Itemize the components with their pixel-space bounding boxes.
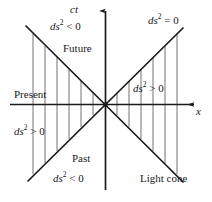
ds-squared-present-right-label: ds2 > 0 — [133, 83, 164, 94]
ds-operator: > — [149, 82, 155, 94]
ds-exponent: 2 — [60, 18, 64, 27]
ds-symbol: ds — [148, 14, 158, 26]
ds-operator: > — [30, 125, 36, 137]
ds-value: 0 — [173, 14, 179, 26]
ds-operator: = — [164, 14, 170, 26]
ds-operator: < — [69, 172, 75, 184]
ds-exponent: 2 — [143, 80, 147, 89]
ds-value: 0 — [39, 125, 45, 137]
ds-squared-past-label: ds2 < 0 — [53, 173, 84, 184]
ds-symbol: ds — [133, 82, 143, 94]
future-region-label: Future — [63, 43, 92, 54]
ds-squared-cone-label: ds2 = 0 — [148, 15, 179, 26]
ds-exponent: 2 — [24, 123, 28, 132]
ct-axis-label: ct — [70, 4, 78, 15]
x-axis-label: x — [196, 106, 201, 117]
ds-squared-future-label: ds2 < 0 — [50, 21, 81, 32]
ds-exponent: 2 — [158, 12, 162, 21]
ds-exponent: 2 — [63, 170, 67, 179]
ds-value: 0 — [78, 172, 84, 184]
ds-value: 0 — [75, 20, 81, 32]
origin-point — [103, 102, 108, 107]
past-region-label: Past — [72, 153, 90, 164]
ds-symbol: ds — [14, 125, 24, 137]
ds-squared-present-left-label: ds2 > 0 — [14, 126, 45, 137]
light-cone-label: Light cone — [140, 173, 187, 184]
present-region-label: Present — [14, 89, 46, 100]
ds-operator: < — [66, 20, 72, 32]
light-cone-figure: ct x ds2 < 0 Future ds2 = 0 Present ds2 … — [0, 0, 212, 202]
ds-value: 0 — [158, 82, 164, 94]
ds-symbol: ds — [53, 172, 63, 184]
ds-symbol: ds — [50, 20, 60, 32]
